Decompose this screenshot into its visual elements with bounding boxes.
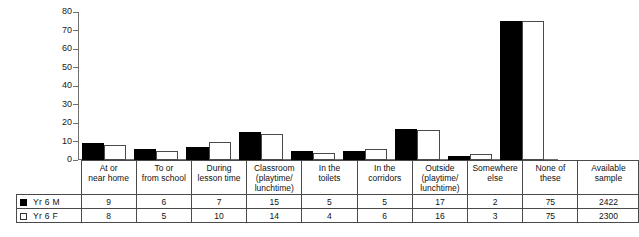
table-header-spacer (17, 161, 82, 195)
bar-group (182, 12, 234, 160)
bar-group (235, 12, 287, 160)
column-header-line: Somewhere (469, 163, 521, 173)
table-cell-value: 4 (302, 209, 357, 223)
table-cell-value: 7 (191, 195, 246, 209)
legend-entry: Yr 6 F (17, 209, 82, 223)
legend-label: Yr 6 M (33, 197, 60, 207)
table-cell-value: 5 (136, 209, 191, 223)
bar-male (500, 21, 522, 160)
bar-group (78, 12, 130, 160)
y-tick-label-10: 10 (62, 137, 72, 146)
column-header: At ornear home (81, 161, 136, 195)
table-cell-value: 17 (412, 195, 467, 209)
column-header-line: lunchtime) (248, 183, 300, 193)
table-cell-value: 9 (81, 195, 136, 209)
y-tick-label-80: 80 (62, 7, 72, 16)
table-cell-value: 10 (191, 209, 246, 223)
empty-square-icon (20, 213, 27, 220)
column-header-line: In the (359, 163, 411, 173)
column-header-line: To or (138, 163, 190, 173)
table-cell-value: 75 (523, 209, 578, 223)
table-cell-value: 5 (302, 195, 357, 209)
table-cell-value: 3 (468, 209, 523, 223)
column-header-line: In the (303, 163, 355, 173)
column-header: To orfrom school (136, 161, 191, 195)
plot-area (78, 12, 558, 160)
column-header: Classroom(playtime/lunchtime) (247, 161, 302, 195)
table-cell-value: 14 (247, 209, 302, 223)
bar-female (365, 149, 387, 160)
column-header-line: None of these (524, 163, 576, 183)
column-header: Somewhereelse (468, 161, 523, 195)
column-header-line: At or (83, 163, 135, 173)
bar-female (522, 21, 544, 160)
table-cell-value: 2 (468, 195, 523, 209)
y-axis-labels: 01020304050607080 (50, 12, 72, 160)
bar-male (343, 151, 365, 160)
bar-female (104, 145, 126, 160)
column-header-line: lesson time (193, 173, 245, 183)
y-tick-label-40: 40 (62, 81, 72, 90)
legend-entry: Yr 6 M (17, 195, 82, 209)
bar-group (444, 12, 496, 160)
column-header-line: corridors (359, 173, 411, 183)
column-header-line: (playtime/ (248, 173, 300, 183)
table-cell-value: 8 (81, 209, 136, 223)
column-header: None of these (523, 161, 578, 195)
filled-square-icon (20, 199, 27, 206)
bar-male (82, 143, 104, 160)
table-cell-value: 75 (523, 195, 578, 209)
table-cell-value: 6 (357, 209, 412, 223)
table-cell-value: 16 (412, 209, 467, 223)
sample-header-line: Available (579, 163, 637, 173)
table-cell-value: 15 (247, 195, 302, 209)
legend-label: Yr 6 F (33, 211, 58, 221)
column-header: Outside(playtime/lunchtime) (412, 161, 467, 195)
bar-female (313, 153, 335, 160)
bar-female (209, 142, 231, 161)
bar-group (130, 12, 182, 160)
bar-male (239, 132, 261, 160)
bar-group (496, 12, 548, 160)
bar-female (417, 130, 439, 160)
column-header-line: lunchtime) (414, 183, 466, 193)
table-cell-value: 5 (357, 195, 412, 209)
column-header-line: (playtime/ (414, 173, 466, 183)
bar-group (339, 12, 391, 160)
y-tick-label-60: 60 (62, 44, 72, 53)
column-header: In thecorridors (357, 161, 412, 195)
table-cell-sample: 2300 (578, 209, 639, 223)
table-header-row: At ornear homeTo orfrom schoolDuringless… (17, 161, 639, 195)
bar-female (156, 151, 178, 160)
column-header-line: from school (138, 173, 190, 183)
y-tick-label-20: 20 (62, 118, 72, 127)
column-header-line: near home (83, 173, 135, 183)
table-row: Yr 6 F85101446163752300 (17, 209, 639, 223)
y-tick-label-70: 70 (62, 26, 72, 35)
column-header: In thetoilets (302, 161, 357, 195)
column-header: Duringlesson time (191, 161, 246, 195)
column-header-line: Outside (414, 163, 466, 173)
bar-male (186, 147, 208, 160)
bar-group (287, 12, 339, 160)
sample-column-header: Availablesample (578, 161, 639, 195)
column-header-line: Classroom (248, 163, 300, 173)
column-header-line: toilets (303, 173, 355, 183)
bar-male (134, 149, 156, 160)
table-row: Yr 6 M9671555172752422 (17, 195, 639, 209)
y-tick-label-50: 50 (62, 63, 72, 72)
bar-female (261, 134, 283, 160)
data-table: At ornear homeTo orfrom schoolDuringless… (16, 160, 606, 217)
table-grid: At ornear homeTo orfrom schoolDuringless… (16, 160, 639, 223)
y-tick-label-30: 30 (62, 100, 72, 109)
bar-male (395, 129, 417, 160)
table-cell-value: 6 (136, 195, 191, 209)
bar-male (291, 151, 313, 160)
bar-group (391, 12, 443, 160)
sample-header-line: sample (579, 173, 637, 183)
column-header-line: During (193, 163, 245, 173)
table-cell-sample: 2422 (578, 195, 639, 209)
column-header-line: else (469, 173, 521, 183)
